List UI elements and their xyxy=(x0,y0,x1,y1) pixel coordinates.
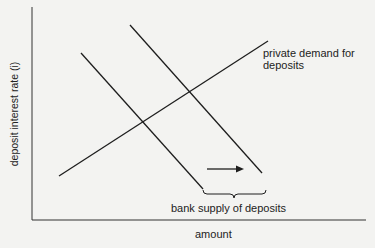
y-axis-label: deposit interest rate (i) xyxy=(8,54,20,174)
supply-curve-initial xyxy=(81,53,203,189)
x-axis-label: amount xyxy=(195,228,232,240)
supply-curve-label: bank supply of deposits xyxy=(171,202,286,214)
shift-arrow-icon xyxy=(207,166,244,173)
demand-curve xyxy=(59,41,268,176)
supply-bracket xyxy=(203,190,266,198)
demand-curve-label: private demand for deposits xyxy=(263,47,373,71)
supply-curve-shifted xyxy=(130,25,262,173)
